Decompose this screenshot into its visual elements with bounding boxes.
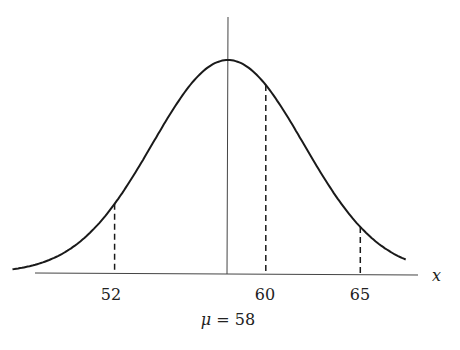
x-axis-label: x <box>432 266 441 285</box>
tick-label-60: 60 <box>255 285 275 304</box>
tick-label-52: 52 <box>101 285 121 304</box>
tick-label-65: 65 <box>350 285 370 304</box>
normal-curve-diagram: x 52 60 65 μ = 58 <box>0 0 460 350</box>
dashed-markers <box>115 85 361 273</box>
mean-line <box>227 17 228 274</box>
x-axis <box>35 273 418 275</box>
mean-label: μ = 58 <box>201 310 255 329</box>
normal-curve <box>13 60 406 269</box>
